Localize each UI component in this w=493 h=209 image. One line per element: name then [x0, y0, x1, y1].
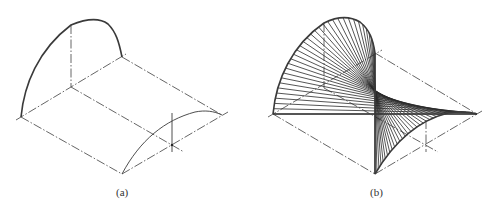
- ruling-line: [293, 54, 433, 118]
- ruling-line: [328, 21, 406, 136]
- back-quarter-arc: [21, 20, 122, 117]
- front-edge-centerline: [122, 112, 228, 174]
- left-edge-centerline: [21, 117, 122, 174]
- panel-a-quarter-cylinder: [16, 20, 228, 174]
- axis-centerline: [71, 87, 184, 152]
- caption-a: (a): [116, 186, 128, 198]
- panel-b-twisted-ruled-surface: [268, 18, 482, 174]
- ruling-line: [338, 18, 400, 141]
- front-center-point: [171, 144, 173, 146]
- left-edge-centerline: [273, 114, 375, 174]
- isometric-surface-figure: [0, 0, 493, 209]
- ruling-line: [311, 34, 418, 127]
- caption-b: (b): [370, 186, 383, 198]
- back-right-edge-centerline: [122, 57, 222, 115]
